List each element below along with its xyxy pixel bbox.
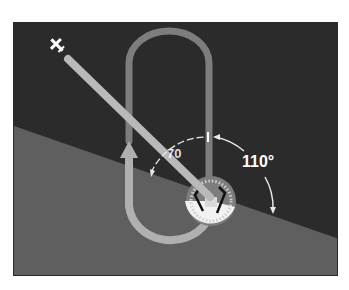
diagram-canvas: 110° 70 — [14, 23, 338, 276]
angle-label-70: 70 — [167, 146, 181, 161]
holding-entry-diagram: 110° 70 — [13, 22, 338, 276]
angle-label-110: 110° — [242, 153, 274, 170]
